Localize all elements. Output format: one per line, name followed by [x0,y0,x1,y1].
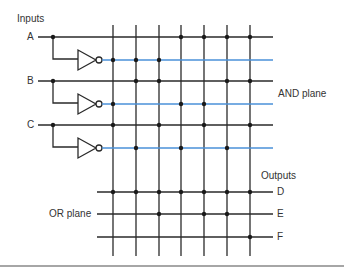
output-d-label: D [277,187,284,197]
inverter-icon [78,50,102,158]
input-b-label: B [27,76,34,86]
output-f-label: F [277,232,283,242]
input-lines [38,37,273,147]
output-e-label: E [277,209,284,219]
complement-lines [102,60,273,148]
and-plane-label: AND plane [278,89,326,99]
input-a-label: A [27,32,34,42]
inputs-label: Inputs [17,14,44,24]
outputs-label: Outputs [261,171,296,181]
input-c-label: C [27,120,34,130]
or-plane-label: OR plane [49,209,91,219]
pla-diagram [0,0,344,269]
or-plane-lines [97,192,273,237]
